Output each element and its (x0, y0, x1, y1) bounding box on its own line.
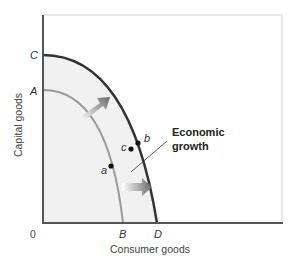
label-D: D (154, 228, 162, 240)
label-c: c (121, 141, 127, 153)
x-axis-label: Consumer goods (110, 243, 190, 255)
label-B: B (119, 228, 126, 240)
annotation-line2: growth (172, 140, 209, 152)
label-a: a (101, 164, 107, 176)
ppc-diagram: C A B D 0 a b c Economic growth Consumer… (0, 0, 296, 262)
point-c (128, 146, 133, 151)
origin-label: 0 (30, 228, 36, 240)
label-b: b (144, 132, 150, 144)
annotation-line1: Economic (172, 126, 225, 138)
label-A: A (29, 85, 37, 97)
point-a (108, 163, 113, 168)
label-C: C (30, 49, 38, 61)
point-b (135, 140, 140, 145)
y-axis-label: Capital goods (12, 93, 24, 157)
